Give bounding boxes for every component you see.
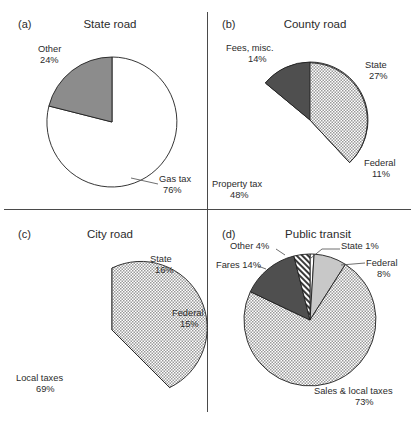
panel-b-title: County road <box>284 18 347 30</box>
panel-c-tag: (c) <box>18 228 31 240</box>
label-b-fees-name: Fees, misc. <box>226 43 274 53</box>
label-a-gastax-name: Gas tax <box>159 174 191 184</box>
label-d-fares: Fares 14% <box>216 260 261 270</box>
label-a-other-pct: 24% <box>40 55 59 65</box>
pie-chart-figure: (a) State road Other 24% Gas tax 76% (b)… <box>0 0 415 424</box>
label-d-sales-name: Sales & local taxes <box>314 386 393 396</box>
label-c-local-name: Local taxes <box>16 373 63 383</box>
label-c-local-pct: 69% <box>36 384 55 394</box>
panel-a-title: State road <box>83 18 136 30</box>
label-a-other-name: Other <box>38 44 61 54</box>
panel-c-title: City road <box>87 228 133 240</box>
label-b-property-name: Property tax <box>212 179 262 189</box>
label-c-federal-name: Federal <box>172 308 204 318</box>
label-d-sales-pct: 73% <box>355 397 374 407</box>
panel-a-tag: (a) <box>18 18 31 30</box>
panel-b-tag: (b) <box>222 18 235 30</box>
label-d-other: Other 4% <box>230 241 269 251</box>
panel-d-title: Public transit <box>285 228 352 240</box>
label-c-federal-pct: 15% <box>180 319 199 329</box>
label-c-state-pct: 16% <box>155 265 174 275</box>
label-b-property-pct: 48% <box>230 190 249 200</box>
label-b-fees-pct: 14% <box>248 54 267 64</box>
panel-d-tag: (d) <box>222 228 235 240</box>
label-b-federal-name: Federal <box>364 158 396 168</box>
label-c-state-name: State <box>150 254 172 264</box>
label-a-gastax-pct: 76% <box>163 185 182 195</box>
label-d-state: State 1% <box>341 241 379 251</box>
label-b-federal-pct: 11% <box>372 169 390 179</box>
label-d-federal-pct: 8% <box>377 269 390 279</box>
label-b-state-pct: 27% <box>369 71 388 81</box>
label-d-federal-name: Federal <box>366 258 398 268</box>
label-b-state-name: State <box>365 60 387 70</box>
